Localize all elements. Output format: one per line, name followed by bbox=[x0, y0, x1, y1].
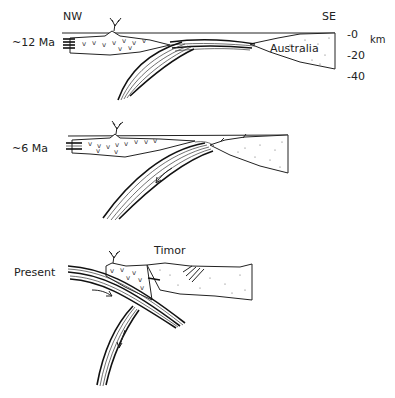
panel-6ma: ~6 Ma vv vv vv vv vv bbox=[12, 121, 288, 220]
svg-text:v: v bbox=[128, 44, 132, 52]
svg-text:v: v bbox=[120, 266, 124, 274]
svg-text:v: v bbox=[126, 274, 130, 282]
se-label: SE bbox=[322, 10, 336, 23]
svg-text:v: v bbox=[96, 147, 100, 155]
depth-scale: -0 km -20 -40 bbox=[347, 28, 386, 83]
sea-level-line bbox=[68, 135, 288, 136]
plate-motion-arrow-icon bbox=[92, 290, 112, 296]
svg-text:v: v bbox=[88, 140, 92, 148]
nw-label: NW bbox=[63, 10, 82, 23]
volcano-plume-icon bbox=[112, 121, 123, 134]
svg-text:v: v bbox=[92, 39, 96, 47]
panel-label-12ma: ~12 Ma bbox=[12, 36, 55, 49]
svg-text:v: v bbox=[138, 276, 142, 284]
volcano-plume-icon bbox=[110, 18, 121, 31]
svg-text:v: v bbox=[124, 140, 128, 148]
svg-text:v: v bbox=[132, 39, 136, 47]
depth-tick-20: -20 bbox=[347, 49, 365, 62]
panel-12ma: ~12 Ma Australia vv vv vv vv v bbox=[12, 18, 335, 100]
svg-text:v: v bbox=[153, 137, 157, 145]
volcano-plume-icon bbox=[109, 251, 120, 263]
svg-text:v: v bbox=[142, 37, 146, 45]
depth-tick-40: -40 bbox=[347, 70, 365, 83]
svg-text:v: v bbox=[132, 269, 136, 277]
svg-text:v: v bbox=[122, 37, 126, 45]
panel-present: Present Timor vv vv vv bbox=[14, 244, 252, 386]
svg-text:v: v bbox=[106, 143, 110, 151]
australia-label: Australia bbox=[270, 42, 319, 55]
timor-label: Timor bbox=[153, 244, 186, 257]
svg-text:v: v bbox=[102, 41, 106, 49]
panel-label-present: Present bbox=[14, 266, 56, 279]
cross-section-diagram: NW SE -0 km -20 -40 ~12 Ma Australia vv … bbox=[0, 0, 395, 398]
svg-text:v: v bbox=[112, 39, 116, 47]
depth-tick-0: -0 bbox=[347, 28, 358, 41]
subducting-plate-horizontal bbox=[170, 40, 255, 51]
svg-text:v: v bbox=[134, 138, 138, 146]
svg-text:v: v bbox=[110, 267, 114, 275]
panel-label-6ma: ~6 Ma bbox=[12, 142, 48, 155]
depth-unit: km bbox=[370, 34, 386, 45]
svg-text:v: v bbox=[144, 138, 148, 146]
svg-text:v: v bbox=[82, 40, 86, 48]
svg-text:v: v bbox=[114, 148, 118, 156]
svg-text:v: v bbox=[118, 45, 122, 53]
